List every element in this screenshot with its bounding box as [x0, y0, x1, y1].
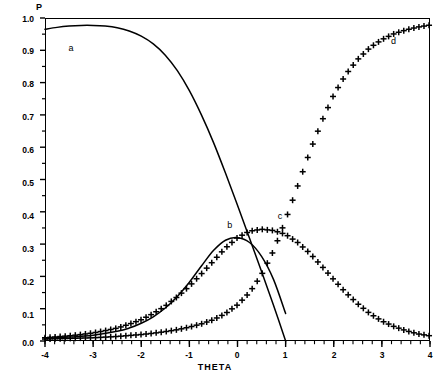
y-tick-label: 0.1: [4, 310, 34, 320]
y-tick-label: 0.0: [4, 338, 34, 348]
x-tick-label: 0: [227, 350, 247, 360]
x-tick-label: 4: [420, 350, 440, 360]
y-tick-label: 0.8: [4, 79, 34, 89]
x-axis-title-text: THETA: [198, 362, 232, 372]
y-tick-label: 0.5: [4, 178, 34, 188]
x-tick-label: -3: [83, 350, 103, 360]
y-tick-label: 0.2: [4, 277, 34, 287]
curve-label-d: d: [391, 36, 396, 46]
x-tick-label: 2: [324, 350, 344, 360]
x-tick-label: -4: [35, 350, 55, 360]
plot-frame: [45, 18, 430, 341]
y-tick-label: 0.3: [4, 244, 34, 254]
x-tick-label: -1: [179, 350, 199, 360]
x-axis-title: THETA: [0, 362, 448, 372]
x-tick-label: 3: [372, 350, 392, 360]
curve-label-b: b: [227, 220, 232, 230]
x-tick-label: 1: [275, 350, 295, 360]
y-tick-label: 0.4: [4, 211, 34, 221]
x-tick-label: -2: [131, 350, 151, 360]
y-tick-label: 0.9: [4, 46, 34, 56]
y-tick-label: 1.0: [4, 14, 34, 24]
chart-figure: P THETA 1.0 0.9 0.8 0.7 0.6 0.5 0.4 0.3 …: [0, 0, 448, 387]
y-tick-label: 0.6: [4, 145, 34, 155]
y-tick-label: 0.7: [4, 112, 34, 122]
curve-label-a: a: [68, 43, 73, 53]
curve-label-c: c: [278, 211, 283, 221]
y-axis-title: P: [36, 2, 42, 12]
